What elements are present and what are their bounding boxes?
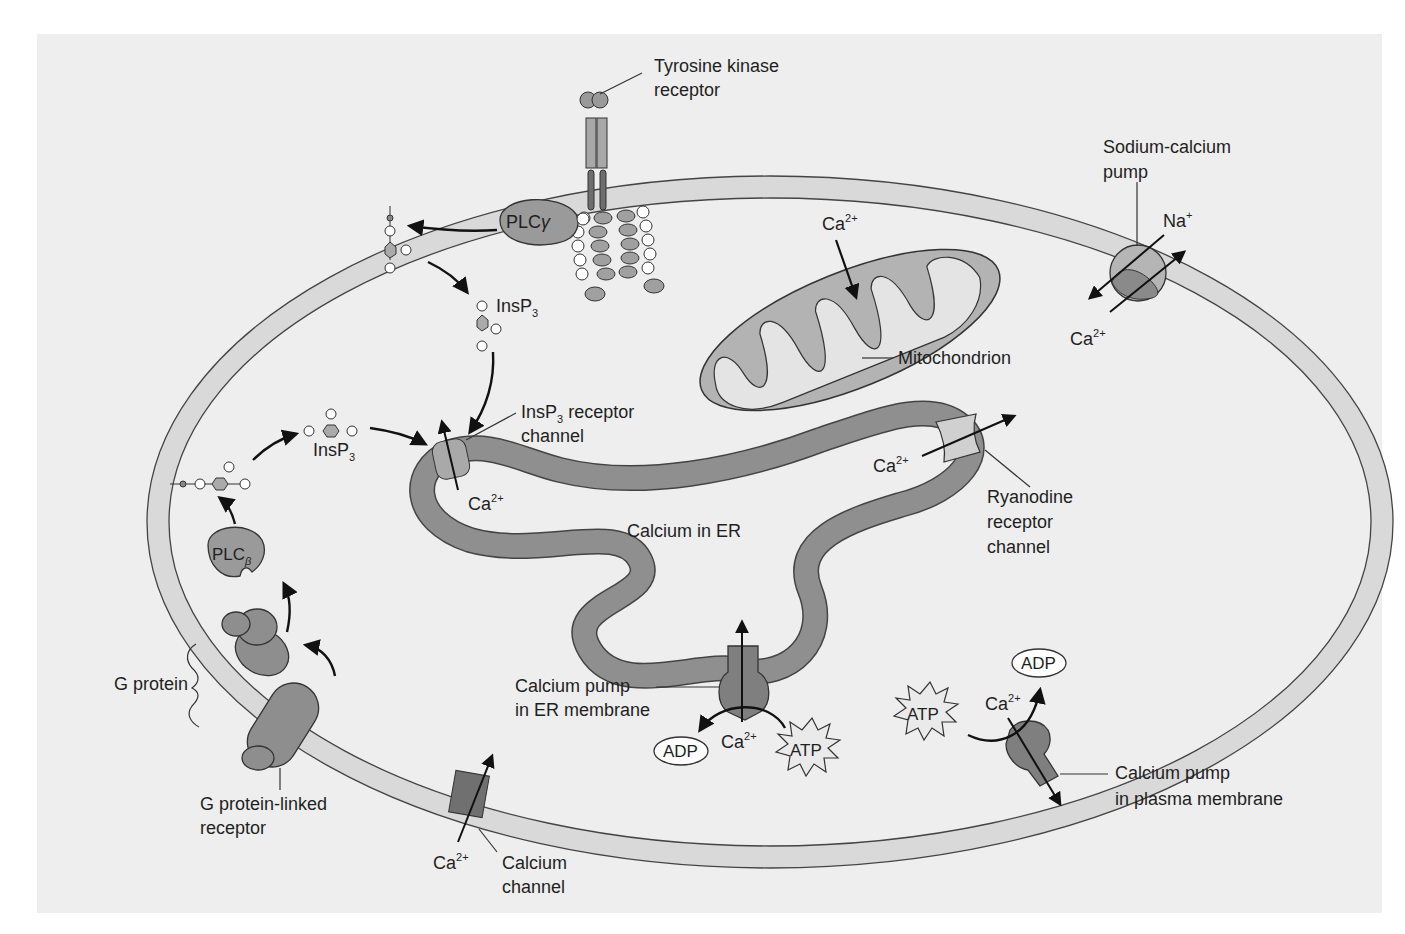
arrow-insp3-left-to-receptor — [370, 428, 425, 444]
label-ca-ryanodine: Ca2+ — [873, 454, 909, 476]
label-calcium-pump-er-line2: in ER membrane — [515, 700, 650, 720]
label-tyrosine-kinase-receptor-line1: Tyrosine kinase — [654, 56, 779, 76]
insp3-molecule-left — [304, 409, 357, 437]
label-insp3-receptor-channel-line1: InsP3 receptor — [521, 402, 634, 425]
leader-ryanodine — [985, 450, 1030, 487]
endoplasmic-reticulum — [422, 413, 972, 675]
label-insp3-left: InsP3 — [313, 440, 355, 463]
arrow-plc-beta-to-pip2 — [220, 498, 235, 524]
arrow-g-protein-to-plc-beta — [284, 584, 290, 632]
arrow-receptor-to-g-protein — [306, 645, 335, 676]
label-na: Na+ — [1163, 209, 1192, 231]
label-insp3-top: InsP3 — [496, 296, 538, 319]
label-ca-pm-pump: Ca2+ — [985, 692, 1021, 714]
label-sodium-calcium-pump-line2: pump — [1103, 162, 1148, 182]
label-calcium-pump-pm-line2: in plasma membrane — [1115, 789, 1283, 809]
label-adp-pm: ADP — [1021, 654, 1056, 673]
label-calcium-pump-er-line1: Calcium pump — [515, 676, 630, 696]
label-ryanodine-line3: channel — [987, 537, 1050, 557]
label-mitochondrion: Mitochondrion — [898, 348, 1011, 368]
label-calcium-channel-line2: channel — [502, 877, 565, 897]
label-ca-sodium-pump: Ca2+ — [1070, 327, 1106, 349]
label-atp-pm: ATP — [907, 705, 939, 724]
arrow-insp3-top-to-receptor — [470, 352, 493, 432]
label-calcium-channel-line1: Calcium — [502, 853, 567, 873]
mitochondrion — [680, 216, 1020, 443]
label-g-protein: G protein — [114, 674, 188, 694]
label-calcium-pump-pm-line1: Calcium pump — [1115, 763, 1230, 783]
label-ryanodine-line2: receptor — [987, 512, 1053, 532]
label-tyrosine-kinase-receptor-line2: receptor — [654, 80, 720, 100]
label-g-protein-linked-receptor-line1: G protein-linked — [200, 794, 327, 814]
label-atp-er: ATP — [790, 741, 822, 760]
label-calcium-in-er: Calcium in ER — [627, 521, 741, 541]
label-ca-calcium-channel: Ca2+ — [433, 851, 469, 873]
calcium-signaling-diagram: Calcium in ER Ca2+ Mitochondrion Tyrosin… — [0, 0, 1405, 934]
label-ca-insp3-channel: Ca2+ — [468, 492, 504, 514]
calcium-pump-plasma-membrane — [1006, 721, 1058, 786]
label-ca-er-pump: Ca2+ — [721, 730, 757, 752]
arrow-pip2-to-insp3-left — [253, 434, 296, 460]
label-sodium-calcium-pump-line1: Sodium-calcium — [1103, 137, 1231, 157]
label-ryanodine-line1: Ryanodine — [987, 487, 1073, 507]
label-adp-er: ADP — [663, 742, 698, 761]
leader-tyrosine-kinase — [600, 73, 642, 94]
pip2-molecule-left — [170, 462, 250, 490]
label-insp3-receptor-channel-line2: channel — [521, 426, 584, 446]
label-ca-mito: Ca2+ — [822, 212, 858, 234]
label-plc-gamma: PLCγ — [506, 212, 551, 232]
arrow-pip2-to-insp3-top — [428, 262, 467, 292]
label-g-protein-linked-receptor-line2: receptor — [200, 818, 266, 838]
